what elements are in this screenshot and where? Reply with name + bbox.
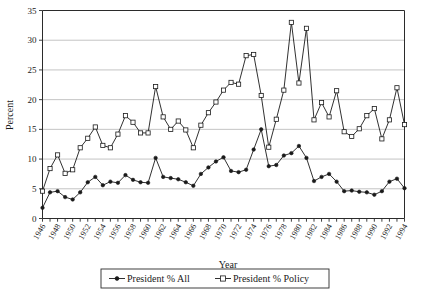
x-tick-label: 1984 <box>318 223 334 242</box>
data-point <box>244 54 248 58</box>
y-tick-label: 20 <box>28 95 38 105</box>
data-point <box>289 20 293 24</box>
data-point <box>207 166 211 170</box>
data-point <box>214 160 218 164</box>
data-point <box>342 130 346 134</box>
data-point <box>252 148 256 152</box>
legend-filled-circle-icon <box>115 277 119 281</box>
data-point <box>320 175 324 179</box>
data-point <box>327 115 331 119</box>
x-tick-label: 1980 <box>288 223 304 242</box>
y-tick-label: 30 <box>28 35 38 45</box>
data-point <box>146 181 150 185</box>
data-point <box>41 206 45 210</box>
data-point <box>319 101 323 105</box>
data-point <box>40 189 44 193</box>
data-point <box>48 191 52 195</box>
data-point <box>56 189 60 193</box>
data-point <box>154 84 158 88</box>
x-axis-title: Year <box>219 259 238 270</box>
data-point <box>259 128 263 132</box>
data-point <box>184 128 188 132</box>
series-group <box>40 20 406 209</box>
data-point <box>192 184 196 188</box>
data-point <box>124 173 128 177</box>
data-point <box>259 93 263 97</box>
data-point <box>78 191 82 195</box>
x-tick-label: 1988 <box>348 223 364 242</box>
data-point <box>335 89 339 93</box>
percent-by-year-line-chart: 05101520253035 1946194819501952195419561… <box>0 0 423 291</box>
data-point <box>131 178 135 182</box>
data-point <box>93 125 97 129</box>
data-point <box>357 127 361 131</box>
data-point <box>237 170 241 174</box>
data-point <box>267 145 271 149</box>
data-point <box>236 82 240 86</box>
data-point <box>350 134 354 138</box>
y-axis-title: Percent <box>4 100 15 130</box>
data-point <box>229 169 233 173</box>
data-point <box>372 106 376 110</box>
gridlines-group <box>43 40 405 189</box>
data-point <box>108 146 112 150</box>
data-point <box>169 176 173 180</box>
data-point <box>380 189 384 193</box>
series-president-policy <box>40 20 406 193</box>
x-tick-label: 1968 <box>197 223 213 242</box>
data-point <box>373 193 377 197</box>
data-point <box>229 80 233 84</box>
data-point <box>86 136 90 140</box>
legend-open-square-icon <box>220 276 225 281</box>
data-point <box>274 117 278 121</box>
legend-label-president-policy: President % Policy <box>233 273 309 284</box>
data-point <box>101 143 105 147</box>
x-tick-label: 1952 <box>77 223 93 242</box>
data-point <box>214 100 218 104</box>
x-tick-label: 1970 <box>212 223 228 242</box>
data-point <box>116 132 120 136</box>
data-point <box>176 119 180 123</box>
data-point <box>297 144 301 148</box>
data-point <box>350 189 354 193</box>
x-tick-label: 1994 <box>393 223 409 242</box>
x-tick-label: 1978 <box>273 223 289 242</box>
x-tick-label: 1986 <box>333 223 349 242</box>
x-tick-label: 1960 <box>137 223 153 242</box>
x-tick-label: 1964 <box>167 223 183 242</box>
data-point <box>63 195 67 199</box>
legend: President % All President % Policy <box>101 269 329 288</box>
data-point <box>169 127 173 131</box>
data-point <box>267 164 271 168</box>
data-point <box>184 181 188 185</box>
x-tick-label: 1972 <box>228 223 244 242</box>
data-point <box>297 81 301 85</box>
data-point <box>131 120 135 124</box>
x-axis-ticks-group: 1946194819501952195419561958196019621964… <box>31 219 409 242</box>
data-point <box>365 114 369 118</box>
data-point <box>290 151 294 155</box>
data-point <box>252 52 256 56</box>
data-point <box>199 123 203 127</box>
x-tick-label: 1992 <box>378 223 394 242</box>
x-tick-label: 1950 <box>62 223 78 242</box>
data-point <box>387 118 391 122</box>
data-point <box>86 181 90 185</box>
data-point <box>177 178 181 182</box>
data-point <box>55 153 59 157</box>
data-point <box>154 156 158 160</box>
x-tick-label: 1958 <box>122 223 138 242</box>
data-point <box>395 86 399 90</box>
legend-label-president-all: President % All <box>127 273 190 284</box>
data-point <box>139 181 143 185</box>
data-point <box>71 168 75 172</box>
x-tick-label: 1982 <box>303 223 319 242</box>
chart-figure: 05101520253035 1946194819501952195419561… <box>0 0 423 291</box>
data-point <box>199 172 203 176</box>
data-point <box>380 137 384 141</box>
data-point <box>94 175 98 179</box>
data-point <box>146 131 150 135</box>
data-point <box>275 163 279 167</box>
y-tick-label: 0 <box>32 214 37 224</box>
data-point <box>327 172 331 176</box>
